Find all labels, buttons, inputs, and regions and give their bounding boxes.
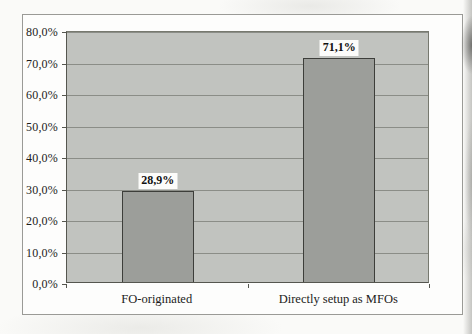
y-tick-mark [62, 64, 67, 65]
y-tick-label: 80,0% [16, 25, 58, 40]
y-tick-mark [62, 127, 67, 128]
page-edge-shadow-blob [461, 16, 472, 74]
y-tick-mark [62, 95, 67, 96]
y-tick-mark [62, 221, 67, 222]
y-tick-mark [62, 32, 67, 33]
x-category-label: FO-originated [121, 292, 192, 307]
x-category-label: Directly setup as MFOs [279, 292, 398, 307]
y-tick-label: 10,0% [16, 245, 58, 260]
chart-frame: 28,9%71,1% 0,0%10,0%20,0%30,0%40,0%50,0%… [22, 14, 463, 315]
page-edge-shadow-smudge [465, 120, 472, 240]
gridline-80 [67, 32, 428, 33]
y-tick-label: 20,0% [16, 214, 58, 229]
y-tick-label: 40,0% [16, 151, 58, 166]
x-tick-mark [248, 284, 249, 288]
bar-1 [303, 58, 375, 282]
bar-value-label: 71,1% [320, 40, 359, 56]
bar-value-label: 28,9% [138, 173, 177, 189]
y-tick-mark [62, 190, 67, 191]
x-tick-mark [66, 284, 67, 288]
scanned-page: { "page": { "kind": "scanned bar chart f… [0, 0, 472, 334]
y-tick-mark [62, 253, 67, 254]
y-tick-mark [62, 158, 67, 159]
y-tick-label: 70,0% [16, 56, 58, 71]
bar-0 [122, 191, 194, 282]
x-tick-mark [429, 284, 430, 288]
y-tick-label: 30,0% [16, 182, 58, 197]
y-tick-label: 50,0% [16, 119, 58, 134]
y-tick-label: 0,0% [16, 277, 58, 292]
plot-area: 28,9%71,1% [66, 31, 429, 283]
y-tick-label: 60,0% [16, 88, 58, 103]
